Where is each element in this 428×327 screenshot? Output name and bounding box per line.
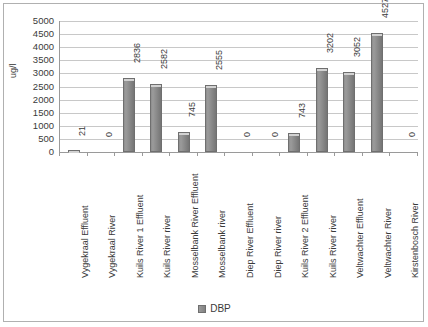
x-axis-label: Vygekraal River: [107, 158, 117, 278]
bar[interactable]: [178, 132, 190, 152]
bar-value-label: 2555: [215, 50, 224, 70]
y-tick-label: 5000: [18, 16, 54, 26]
legend-label-dbp: DBP: [210, 304, 231, 314]
bar-group: 745: [170, 21, 198, 152]
bar-highlight: [289, 134, 299, 136]
bar-group: 2582: [143, 21, 171, 152]
y-tick-label: 2000: [18, 95, 54, 105]
bar-highlight: [317, 69, 327, 71]
bar-highlight: [372, 34, 382, 36]
bar-value-label: 3052: [353, 37, 362, 57]
x-axis-label: Kirstenbosch River: [410, 158, 420, 278]
bar-highlight: [179, 133, 189, 135]
x-axis-label: Vygekraal Effluent: [80, 158, 90, 278]
x-axis-label: Veltwachter Effluent: [355, 158, 365, 278]
bar-value-label: 4527: [381, 0, 390, 18]
x-axis-label: Veltwachter River: [383, 158, 393, 278]
bar-group: 3202: [308, 21, 336, 152]
x-tick: [362, 152, 363, 156]
chart-frame: ug/l 50004500400035003000250020001500100…: [3, 3, 424, 322]
chart-legend: DBP: [4, 304, 425, 314]
x-tick: [389, 152, 390, 156]
x-tick: [224, 152, 225, 156]
bar-value-label: 2582: [160, 49, 169, 69]
x-tick: [87, 152, 88, 156]
bar-group: 21: [60, 21, 88, 152]
bar[interactable]: [123, 78, 135, 152]
x-tick: [114, 152, 115, 156]
y-axis-tick-labels: 5000450040003500300025002000150010005000: [18, 18, 54, 158]
bar-group: 2836: [115, 21, 143, 152]
y-tick-label: 0: [18, 147, 54, 157]
bars-layer: 210283625827452555007433202305245270: [60, 21, 418, 152]
bar-value-label: 3202: [326, 33, 335, 53]
bar-group: 2555: [198, 21, 226, 152]
x-tick: [59, 152, 60, 156]
x-tick: [142, 152, 143, 156]
x-tick: [334, 152, 335, 156]
plot-area: 210283625827452555007433202305245270: [59, 21, 418, 153]
bar[interactable]: [371, 33, 383, 152]
bar-value-label: 0: [105, 132, 114, 137]
bar-group: 743: [280, 21, 308, 152]
bar-group: 0: [88, 21, 116, 152]
x-axis-ticks: [59, 152, 417, 156]
x-tick: [307, 152, 308, 156]
legend-swatch-dbp: [198, 305, 206, 313]
bar[interactable]: [288, 133, 300, 152]
bar-highlight: [151, 85, 161, 87]
bar[interactable]: [316, 68, 328, 152]
x-tick: [169, 152, 170, 156]
x-axis-label: Diep River Effluent: [245, 158, 255, 278]
x-axis-label: Diep River river: [273, 158, 283, 278]
x-axis-label: Kuils River 2 Effluent: [300, 158, 310, 278]
x-axis-label: Mosselbank River Effluent: [190, 158, 200, 278]
bar-group: 0: [253, 21, 281, 152]
bar-group: 3052: [335, 21, 363, 152]
y-tick-label: 3500: [18, 55, 54, 65]
x-axis-label: Kuils River river: [162, 158, 172, 278]
bar-value-label: 745: [188, 102, 197, 117]
bar-group: 0: [390, 21, 418, 152]
bar-highlight: [206, 86, 216, 88]
x-tick: [279, 152, 280, 156]
bar-group: 0: [225, 21, 253, 152]
x-axis-label: Mosselbank river: [217, 158, 227, 278]
bar[interactable]: [343, 72, 355, 152]
x-axis-category-labels: Vygekraal EffluentVygekraal RiverKuils R…: [59, 158, 417, 280]
x-tick: [252, 152, 253, 156]
x-tick: [197, 152, 198, 156]
y-tick-label: 4500: [18, 29, 54, 39]
bar-value-label: 0: [271, 132, 280, 137]
y-tick-label: 1500: [18, 108, 54, 118]
bar-value-label: 743: [298, 103, 307, 118]
bar-value-label: 2836: [133, 43, 142, 63]
x-axis-label: Kuils River river: [328, 158, 338, 278]
y-tick-label: 3000: [18, 68, 54, 78]
bar-group: 4527: [363, 21, 391, 152]
x-tick: [417, 152, 418, 156]
y-tick-label: 4000: [18, 42, 54, 52]
y-axis-title: ug/l: [8, 64, 18, 78]
bar-value-label: 21: [78, 126, 87, 136]
bar-value-label: 0: [408, 132, 417, 137]
bar[interactable]: [150, 84, 162, 152]
y-tick-label: 2500: [18, 82, 54, 92]
x-axis-label: Kuils River 1 Effluent: [135, 158, 145, 278]
y-tick-label: 1000: [18, 121, 54, 131]
y-tick-label: 500: [18, 134, 54, 144]
bar-highlight: [124, 79, 134, 81]
bar-value-label: 0: [243, 132, 252, 137]
bar-highlight: [344, 73, 354, 75]
bar[interactable]: [205, 85, 217, 152]
